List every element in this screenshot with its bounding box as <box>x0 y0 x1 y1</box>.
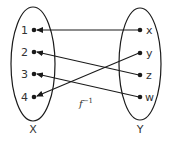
set-y-label: Y <box>136 123 144 136</box>
point-1 <box>32 28 37 33</box>
point-y <box>138 51 143 56</box>
point-2 <box>32 50 37 55</box>
codomain-points <box>138 28 143 100</box>
label-3: 3 <box>21 68 28 81</box>
label-w: w <box>145 91 154 104</box>
arrow-z-to-2 <box>37 52 139 75</box>
label-4: 4 <box>21 91 28 104</box>
mapping-diagram: 1 2 3 4 x y z w f−1 X Y <box>0 0 173 141</box>
label-1: 1 <box>21 24 28 37</box>
function-label: f−1 <box>78 97 93 109</box>
point-z <box>138 73 143 78</box>
label-z: z <box>146 69 152 82</box>
set-y-ellipse <box>119 8 161 120</box>
label-x: x <box>146 24 153 37</box>
arrow-y-to-4 <box>37 53 139 96</box>
point-3 <box>32 72 37 77</box>
label-y: y <box>146 47 153 60</box>
point-4 <box>32 95 37 100</box>
set-x-label: X <box>29 123 37 136</box>
set-x-ellipse <box>11 7 55 121</box>
domain-points <box>32 28 37 100</box>
label-2: 2 <box>21 46 28 59</box>
function-superscript: −1 <box>83 97 93 105</box>
mapping-arrows <box>37 30 139 97</box>
point-x <box>138 28 143 33</box>
point-w <box>138 95 143 100</box>
